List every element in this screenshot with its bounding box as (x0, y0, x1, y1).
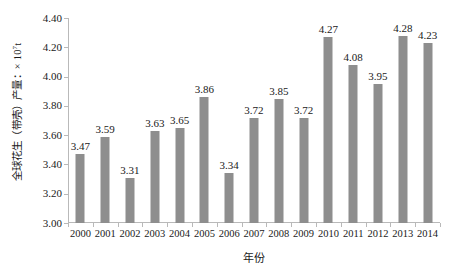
x-axis-tick-label: 2014 (413, 228, 443, 240)
bar[interactable] (125, 178, 134, 223)
y-axis-tick-label: 4.40 (26, 13, 62, 24)
bar-value-label: 3.59 (96, 124, 115, 135)
y-axis-tick-label: 3.20 (26, 188, 62, 199)
x-axis-tick-mark (217, 223, 218, 227)
bar-group: 3.63 (142, 18, 167, 223)
bar-group: 3.72 (242, 18, 267, 223)
plot-area: 3.473.593.313.633.653.863.343.723.853.72… (68, 18, 440, 223)
bar[interactable] (349, 65, 358, 223)
x-axis-tick-mark (316, 223, 317, 227)
bar-group: 4.23 (415, 18, 440, 223)
x-axis-tick-mark (242, 223, 243, 227)
y-axis-tick-label: 3.80 (26, 100, 62, 111)
bar[interactable] (274, 99, 283, 223)
bar[interactable] (249, 118, 258, 223)
bar-group: 3.86 (192, 18, 217, 223)
x-axis-tick-mark (291, 223, 292, 227)
bar-group: 3.65 (167, 18, 192, 223)
bar-group: 3.47 (68, 18, 93, 223)
bar-group: 3.72 (291, 18, 316, 223)
bar-value-label: 3.47 (71, 141, 90, 152)
bar-value-label: 4.28 (393, 23, 412, 34)
bar[interactable] (373, 84, 382, 223)
y-axis-tick-label: 4.00 (26, 71, 62, 82)
x-axis-tick-mark (415, 223, 416, 227)
bar[interactable] (423, 43, 432, 223)
bar-value-label: 3.95 (368, 71, 387, 82)
y-axis-title: 全球花生（带壳）产量：× 107t (9, 0, 27, 227)
bar-value-label: 3.65 (170, 115, 189, 126)
y-axis-tick-label: 3.40 (26, 159, 62, 170)
bar-value-label: 3.34 (220, 160, 239, 171)
bar-value-label: 3.63 (145, 118, 164, 129)
bar[interactable] (398, 36, 407, 223)
y-axis-tick-label: 4.20 (26, 42, 62, 53)
x-axis-tick-mark (93, 223, 94, 227)
bar[interactable] (150, 131, 159, 223)
bar[interactable] (76, 154, 85, 223)
bar-group: 4.28 (390, 18, 415, 223)
y-axis-title-exponent: 7 (11, 46, 19, 50)
bar[interactable] (324, 37, 333, 223)
y-axis-tick-label: 3.00 (26, 218, 62, 229)
bar[interactable] (225, 173, 234, 223)
x-axis-tick-mark (266, 223, 267, 227)
bar[interactable] (101, 137, 110, 223)
x-axis-title: 年份 (68, 252, 440, 265)
bar-chart: 全球花生（带壳）产量：× 107t 4.404.204.003.803.603.… (0, 0, 451, 280)
bar-value-label: 3.85 (269, 86, 288, 97)
bar-value-label: 3.86 (195, 84, 214, 95)
bar-group: 4.27 (316, 18, 341, 223)
x-axis-tick-mark (440, 223, 441, 227)
x-axis-tick-mark (366, 223, 367, 227)
y-axis-title-unit: t (12, 43, 23, 46)
x-axis-tick-mark (142, 223, 143, 227)
bar-group: 3.59 (93, 18, 118, 223)
bar-group: 3.31 (118, 18, 143, 223)
bar-group: 3.85 (266, 18, 291, 223)
bar-group: 3.95 (366, 18, 391, 223)
x-axis-tick-mark (68, 223, 69, 227)
bar-value-label: 4.27 (319, 24, 338, 35)
bar[interactable] (175, 128, 184, 223)
bar-group: 4.08 (341, 18, 366, 223)
bar-group: 3.34 (217, 18, 242, 223)
y-axis-tick-label: 3.60 (26, 130, 62, 141)
bar-value-label: 3.72 (244, 105, 263, 116)
bar-value-label: 4.23 (418, 30, 437, 41)
bar-value-label: 4.08 (344, 52, 363, 63)
bar-value-label: 3.31 (120, 165, 139, 176)
y-axis-title-text: 全球花生（带壳）产量：× 10 (12, 49, 23, 181)
x-axis-tick-mark (341, 223, 342, 227)
bar[interactable] (299, 118, 308, 223)
y-axis-tick-labels: 4.404.204.003.803.603.403.203.00 (26, 0, 62, 280)
x-axis-tick-mark (192, 223, 193, 227)
x-axis-tick-mark (118, 223, 119, 227)
bar[interactable] (200, 97, 209, 223)
x-axis-tick-labels: 2000200120022003200420052006200720082009… (68, 228, 440, 242)
x-axis-tick-mark (167, 223, 168, 227)
x-axis-tick-mark (390, 223, 391, 227)
bar-value-label: 3.72 (294, 105, 313, 116)
